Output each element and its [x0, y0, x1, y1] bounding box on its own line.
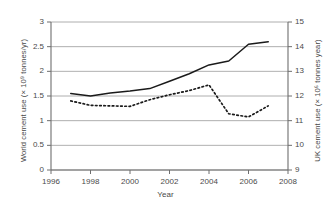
plot-canvas [0, 0, 331, 211]
series-line-world [71, 42, 269, 96]
cement-use-chart: World cement use (× 10⁹ tonnes/yr) UK ce… [0, 0, 331, 211]
series-line-uk [71, 85, 269, 117]
